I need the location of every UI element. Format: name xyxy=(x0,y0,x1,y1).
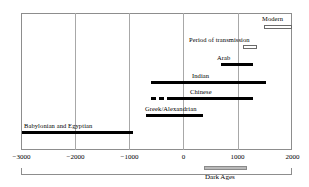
x-tick-label--2000: −2000 xyxy=(54,153,97,162)
bar-arab xyxy=(221,63,253,66)
bar-greek-alexandrian xyxy=(146,114,203,117)
timeline-chart-figure: Modern Period of transmission Arab India… xyxy=(0,0,309,187)
axis-bottom-bracket xyxy=(21,168,292,175)
bar-label-period-of-transmission: Period of transmission xyxy=(189,36,250,44)
bar-dark-ages xyxy=(204,166,247,170)
bar-label-modern: Modern xyxy=(262,15,283,23)
bar-label-dark-ages: Dark Ages xyxy=(205,173,235,182)
bar-label-arab: Arab xyxy=(217,54,230,62)
x-tick-label-0: 0 xyxy=(162,153,205,162)
x-tick-label--1000: −1000 xyxy=(108,153,151,162)
bar-label-chinese: Chinese xyxy=(190,88,212,96)
bar-period-of-transmission xyxy=(243,45,257,49)
bar-label-babylonian-and-egyptian: Babylonian and Egyptian xyxy=(24,122,92,130)
bar-indian xyxy=(151,81,266,84)
bar-babylonian-and-egyptian xyxy=(22,131,133,134)
gridline--1000 xyxy=(129,13,130,150)
bar-chinese xyxy=(167,97,253,100)
x-tick-label--3000: −3000 xyxy=(0,153,43,162)
bar-chinese-dash-2 xyxy=(159,97,164,100)
bar-chinese-dash-1 xyxy=(151,97,156,100)
bar-modern xyxy=(264,25,292,29)
bar-label-indian: Indian xyxy=(192,72,209,80)
x-tick-label-1000: 1000 xyxy=(216,153,259,162)
bar-label-greek-alexandrian: Greek/Alexandrian xyxy=(145,105,197,113)
x-tick-label-2000: 2000 xyxy=(271,153,309,162)
